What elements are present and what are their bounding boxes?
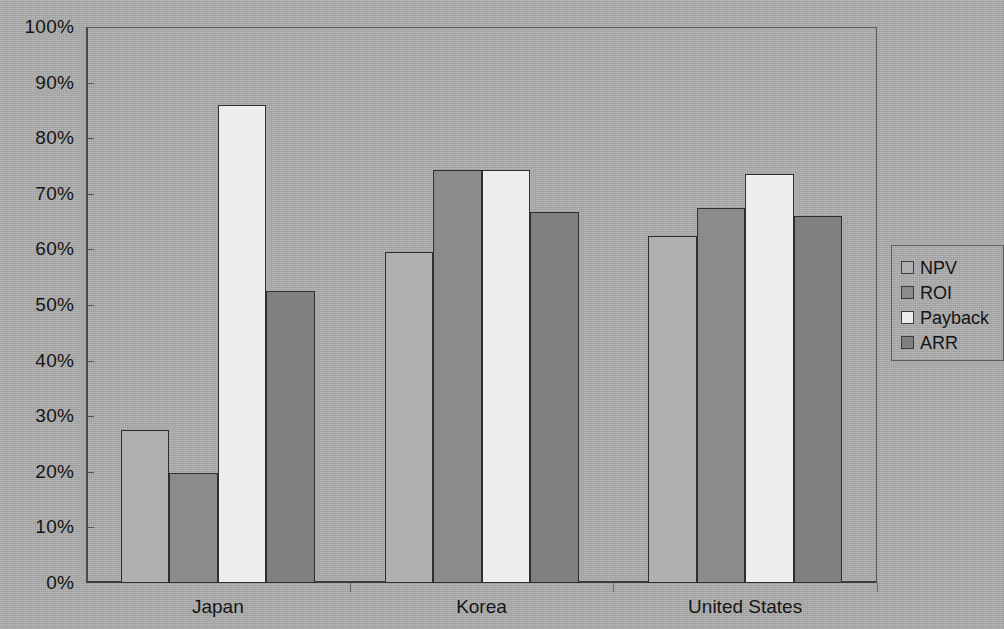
y-axis-tick-label: 40% xyxy=(35,351,74,370)
y-axis-tick-label: 50% xyxy=(35,295,74,314)
legend-swatch-icon xyxy=(901,336,914,349)
bar-payback-united-states xyxy=(745,174,794,583)
bar-npv-korea xyxy=(385,252,434,583)
x-axis-category-label: Japan xyxy=(86,596,350,617)
x-axis-group-tick xyxy=(613,583,614,592)
y-axis-tick-label: 0% xyxy=(46,573,74,592)
bar-payback-japan xyxy=(218,105,267,583)
bar-roi-japan xyxy=(169,473,218,583)
legend-item-arr[interactable]: ARR xyxy=(901,330,1003,355)
legend-swatch-icon xyxy=(901,261,914,274)
legend-item-label: Payback xyxy=(920,309,989,327)
bar-arr-japan xyxy=(266,291,315,583)
x-axis-group-tick xyxy=(350,583,351,592)
bar-arr-united-states xyxy=(794,216,843,583)
legend-item-label: NPV xyxy=(920,259,957,277)
bar-payback-korea xyxy=(482,170,531,583)
legend-item-npv[interactable]: NPV xyxy=(901,255,1003,280)
legend-item-roi[interactable]: ROI xyxy=(901,280,1003,305)
legend-item-label: ARR xyxy=(920,334,958,352)
y-axis-tick-label: 60% xyxy=(35,239,74,258)
x-axis-group-tick xyxy=(877,583,878,592)
bar-roi-korea xyxy=(433,170,482,583)
chart-legend: NPVROIPaybackARR xyxy=(891,245,1004,361)
y-axis-tick-label: 20% xyxy=(35,462,74,481)
legend-swatch-icon xyxy=(901,286,914,299)
bar-roi-united-states xyxy=(697,208,746,583)
x-axis-category-label: Korea xyxy=(350,596,614,617)
bar-chart: 100%90%80%70%60%50%40%30%20%10%0% JapanK… xyxy=(0,0,1004,629)
bar-npv-united-states xyxy=(648,236,697,584)
y-axis-tick-label: 30% xyxy=(35,406,74,425)
x-axis-category-label: United States xyxy=(613,596,877,617)
legend-swatch-icon xyxy=(901,311,914,324)
y-axis-tick-label: 70% xyxy=(35,184,74,203)
y-axis-tick-label: 10% xyxy=(35,517,74,536)
y-axis-tick-label: 90% xyxy=(35,73,74,92)
legend-item-label: ROI xyxy=(920,284,952,302)
y-axis-tick-label: 100% xyxy=(25,17,74,36)
y-axis-tick-label: 80% xyxy=(35,128,74,147)
bar-npv-japan xyxy=(121,430,170,583)
bar-arr-korea xyxy=(530,212,579,583)
legend-item-payback[interactable]: Payback xyxy=(901,305,1003,330)
